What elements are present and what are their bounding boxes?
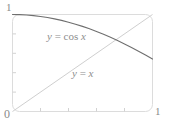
identity-line-annotation: y = x (72, 68, 94, 79)
cosine-curve-annotation: y = cos x (47, 31, 86, 42)
line-annotation-equals: = (77, 67, 89, 79)
cosine-annotation-function: cos (64, 30, 79, 42)
plot-canvas (0, 0, 170, 129)
plot-figure: 1 0 1 y = cos x y = x (0, 0, 170, 129)
x-axis-ticks (41, 108, 125, 112)
origin-label: 0 (4, 108, 10, 120)
x-axis-max-label: 1 (155, 106, 161, 117)
cosine-annotation-arg-symbol: x (81, 30, 86, 42)
y-axis-max-label: 1 (6, 2, 12, 13)
line-annotation-x-symbol: x (89, 67, 94, 79)
cosine-annotation-equals: = (52, 30, 64, 42)
y-axis-ticks (13, 34, 17, 92)
